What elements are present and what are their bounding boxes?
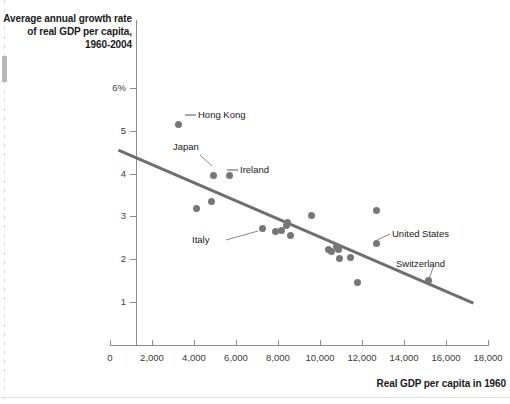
point-label-japan: Japan (173, 141, 199, 152)
point-label-united-states: United States (392, 228, 449, 239)
scatter-chart: Average annual growth rate of real GDP p… (0, 0, 510, 404)
label-leader-lines (0, 0, 510, 404)
point-label-ireland: Ireland (240, 164, 269, 175)
point-label-switzerland: Switzerland (396, 258, 445, 269)
point-label-hong-kong: Hong Kong (198, 109, 246, 120)
point-label-italy: Italy (192, 234, 209, 245)
